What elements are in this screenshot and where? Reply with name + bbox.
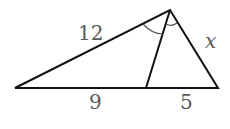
- label-side-x: x: [205, 29, 216, 53]
- angle-mark-left: [143, 24, 163, 34]
- label-base-9: 9: [89, 90, 102, 114]
- triangle-outline: [15, 10, 218, 88]
- angle-mark-right: [166, 23, 177, 25]
- triangle-diagram: 12 x 9 5: [0, 0, 230, 129]
- label-side-12: 12: [78, 21, 103, 45]
- label-base-5: 5: [180, 90, 193, 114]
- angle-bisector: [146, 10, 170, 88]
